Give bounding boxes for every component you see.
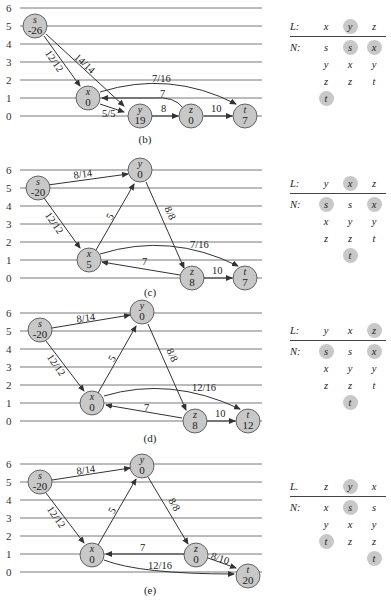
svg-text:19: 19: [135, 114, 147, 126]
svg-text:2: 2: [6, 236, 12, 248]
node-x: x0: [80, 543, 104, 567]
neighbor-list-table-b: L: x y z N: s s x y x y z z t t: [290, 18, 386, 107]
table-cell: z: [343, 378, 358, 393]
table-cell: t: [319, 534, 334, 549]
table-rule: [290, 36, 386, 37]
table-cell: N:: [290, 42, 314, 53]
svg-text:7: 7: [242, 276, 248, 288]
table-cell: x: [367, 479, 382, 494]
svg-text:0: 0: [139, 310, 145, 322]
svg-text:8/8: 8/8: [166, 496, 182, 513]
svg-text:5/5: 5/5: [102, 108, 115, 119]
svg-text:0: 0: [137, 168, 143, 180]
svg-text:0: 0: [6, 566, 12, 578]
node-t: t7: [233, 266, 257, 290]
table-cell: z: [319, 479, 334, 494]
table-cell: t: [367, 231, 382, 246]
panel-c: 6 5 4 3 2 1 0 8/14 12/12 5 8/8 7/16 7 10…: [0, 150, 391, 302]
table-cell: s: [367, 500, 382, 515]
panel-b: 6 5 4 3 2 1 0 12/12 14/14 5/5 7/16 7 8 1…: [0, 0, 391, 150]
svg-text:6: 6: [6, 2, 12, 14]
table-cell: y: [367, 517, 382, 532]
table-cell: y: [319, 323, 334, 338]
node-y: y19: [128, 104, 152, 128]
svg-text:4: 4: [6, 38, 12, 50]
node-z: z8: [183, 409, 207, 433]
table-cell: s: [343, 344, 358, 359]
node-z: z0: [179, 104, 203, 128]
svg-text:8: 8: [189, 276, 195, 288]
svg-text:2: 2: [6, 74, 12, 86]
svg-text:12/16: 12/16: [192, 382, 216, 393]
svg-text:14/14: 14/14: [72, 51, 98, 76]
svg-text:20: 20: [243, 574, 255, 586]
caption-c: (c): [144, 286, 157, 299]
node-y: y0: [130, 454, 154, 478]
svg-text:5: 5: [6, 20, 12, 32]
svg-text:6: 6: [6, 458, 12, 470]
svg-text:8/10: 8/10: [210, 550, 231, 566]
table-cell: y: [319, 517, 334, 532]
table-cell: L:: [290, 21, 314, 32]
table-cell: x: [319, 500, 334, 515]
caption-d: (d): [144, 432, 157, 445]
table-cell: N:: [290, 199, 314, 210]
svg-text:0: 0: [6, 272, 12, 284]
svg-text:8/14: 8/14: [76, 463, 97, 477]
table-cell: z: [367, 323, 382, 338]
y-axis-ticks: 6 5 4 3 2 1 0: [6, 458, 12, 578]
caption-b: (b): [139, 133, 152, 146]
table-cell: y: [367, 214, 382, 229]
table-cell: y: [343, 361, 358, 376]
svg-text:4: 4: [6, 494, 12, 506]
table-cell: y: [367, 361, 382, 376]
svg-text:5: 5: [106, 505, 118, 515]
table-cell: y: [319, 57, 334, 72]
table-cell: N:: [290, 346, 314, 357]
svg-text:2: 2: [6, 379, 12, 391]
y-axis-ticks: 6 5 4 3 2 1 0: [6, 307, 12, 427]
svg-text:3: 3: [6, 512, 12, 524]
table-cell: x: [343, 323, 358, 338]
table-cell: x: [343, 176, 358, 191]
node-y: y0: [130, 300, 154, 324]
svg-text:5: 5: [104, 211, 116, 221]
table-cell: z: [319, 74, 334, 89]
svg-text:7: 7: [144, 402, 149, 413]
svg-text:-20: -20: [31, 186, 46, 198]
svg-text:4: 4: [6, 200, 12, 212]
node-s: s-20: [26, 176, 50, 200]
table-cell: x: [343, 57, 358, 72]
svg-text:7/16: 7/16: [152, 73, 171, 84]
table-cell: x: [319, 19, 334, 34]
table-cell: y: [343, 479, 358, 494]
svg-text:8/14: 8/14: [76, 311, 97, 325]
svg-text:3: 3: [6, 218, 12, 230]
table-cell: L.: [290, 481, 314, 492]
panel-d: 6 5 4 3 2 1 0 8/14 12/12 5 8/8 12/16 7 1…: [0, 300, 391, 452]
svg-text:7: 7: [160, 88, 165, 99]
node-x: x5: [77, 248, 101, 272]
svg-text:0: 0: [89, 401, 95, 413]
svg-text:6: 6: [6, 164, 12, 176]
svg-text:0: 0: [6, 110, 12, 122]
svg-text:0: 0: [89, 553, 95, 565]
svg-text:7/16: 7/16: [190, 239, 209, 250]
table-cell: x: [367, 40, 382, 55]
svg-text:0: 0: [139, 464, 145, 476]
table-rule: [290, 496, 386, 497]
table-cell: L:: [290, 178, 314, 189]
svg-text:8: 8: [161, 103, 166, 114]
node-x: x0: [76, 86, 100, 110]
y-axis-ticks: 6 5 4 3 2 1 0: [6, 2, 12, 122]
svg-text:10: 10: [211, 103, 222, 114]
table-cell: s: [319, 40, 334, 55]
svg-text:8: 8: [192, 419, 198, 431]
panel-e: 6 5 4 3 2 1 0 8/14 12/12 5 8/8 7 12/16 8…: [0, 452, 391, 607]
node-z: z0: [184, 543, 208, 567]
table-rule: [290, 340, 386, 341]
table-cell: t: [343, 248, 358, 263]
svg-text:1: 1: [6, 397, 12, 409]
svg-text:5: 5: [6, 182, 12, 194]
table-cell: t: [367, 74, 382, 89]
